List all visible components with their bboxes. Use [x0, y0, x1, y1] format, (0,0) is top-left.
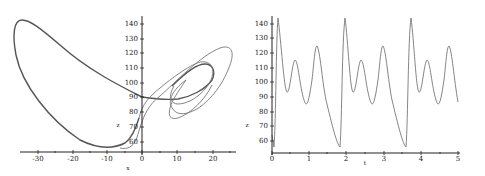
x-tick-label: -20	[67, 155, 78, 163]
x-tick-label: 1	[307, 155, 311, 163]
y-tick-labels: 60 70 80 90 100 110 120 130 140	[125, 20, 138, 146]
x-tick-label: 3	[382, 155, 386, 163]
x-tick-labels: -30 -20 -10 0 10 20	[32, 155, 217, 163]
y-tick-label: 80	[129, 108, 138, 116]
phase-trajectory	[14, 20, 232, 149]
x-tick-label: 5	[456, 155, 460, 163]
y-tick-label: 120	[125, 49, 138, 57]
y-tick-label: 90	[129, 93, 138, 101]
y-tick-label: 140	[125, 20, 138, 28]
y-tick-label: 140	[255, 20, 268, 28]
y-tick-label: 130	[255, 34, 268, 42]
y-tick-label: 100	[125, 79, 138, 87]
x-axis-label: x	[126, 164, 130, 171]
x-tick-label: 2	[344, 155, 348, 163]
phase-portrait-plot: -30 -20 -10 0 10 20 60 70 80 90 100 110	[14, 16, 236, 171]
x-tick-label: 0	[140, 155, 144, 163]
x-tick-label: 20	[209, 155, 218, 163]
y-tick-labels: 60 70 80 90 100 110 120 130 140	[255, 20, 268, 145]
time-series-plot: 0 1 2 3 4 5 60 70 80 90 100 110 120 13	[245, 16, 460, 166]
y-tick-label: 70	[259, 122, 268, 130]
y-tick-label: 120	[255, 49, 268, 57]
figure: -30 -20 -10 0 10 20 60 70 80 90 100 110	[0, 0, 485, 176]
y-tick-label: 110	[125, 64, 138, 72]
x-tick-label: 0	[270, 155, 274, 163]
x-tick-label: 4	[419, 155, 424, 163]
y-tick-label: 60	[259, 137, 268, 145]
y-tick-label: 100	[255, 78, 268, 86]
y-tick-label: 110	[255, 64, 268, 72]
y-tick-label: 130	[125, 35, 138, 43]
y-tick-label: 70	[129, 123, 138, 131]
y-axis-label: z	[116, 121, 119, 128]
x-axis-label: t	[364, 159, 367, 166]
x-tick-label: -30	[32, 155, 43, 163]
y-axis-label: z	[245, 121, 248, 128]
x-tick-label: -10	[101, 155, 112, 163]
z-time-series-line	[272, 18, 458, 147]
y-tick-label: 60	[129, 138, 138, 146]
x-tick-label: 10	[173, 155, 182, 163]
y-tick-label: 90	[259, 93, 268, 101]
y-tick-label: 80	[259, 108, 268, 116]
